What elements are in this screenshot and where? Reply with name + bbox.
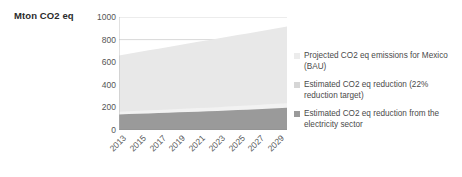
y-tick-label: 0 — [90, 126, 116, 135]
y-axis-title: Mton CO2 eq — [14, 10, 74, 21]
x-axis-tick-labels: 201320152017201920212023202520272029 — [119, 131, 294, 175]
legend-swatch-icon — [294, 82, 300, 88]
plot-area — [119, 17, 287, 130]
x-tick-label: 2017 — [147, 133, 167, 153]
x-tick-label: 2013 — [108, 133, 128, 153]
area-chart: Mton CO2 eq 1000 800 600 400 200 0 20132… — [0, 0, 462, 177]
y-axis-tick-labels: 1000 800 600 400 200 0 — [88, 17, 116, 130]
y-tick-label: 1000 — [90, 13, 116, 22]
plot-svg — [119, 17, 287, 130]
legend-item-label: Projected CO2 eq emissions for Mexico (B… — [304, 50, 460, 72]
y-tick-label: 800 — [90, 35, 116, 44]
legend-item-label: Estimated CO2 eq reduction (22% reductio… — [304, 79, 460, 101]
legend-swatch-icon — [294, 111, 300, 117]
x-tick-label: 2027 — [246, 133, 266, 153]
x-tick-label: 2023 — [206, 133, 226, 153]
x-tick-label: 2015 — [127, 133, 147, 153]
stacked-area-series — [119, 27, 287, 130]
y-tick-label: 400 — [90, 81, 116, 90]
y-tick-label: 600 — [90, 58, 116, 67]
y-tick-label: 200 — [90, 103, 116, 112]
legend-item[interactable]: Estimated CO2 eq reduction from the elec… — [294, 108, 460, 130]
legend-item[interactable]: Projected CO2 eq emissions for Mexico (B… — [294, 50, 460, 72]
x-tick-label: 2025 — [226, 133, 246, 153]
x-tick-label: 2021 — [187, 133, 207, 153]
legend-item-label: Estimated CO2 eq reduction from the elec… — [304, 108, 460, 130]
chart-legend: Projected CO2 eq emissions for Mexico (B… — [294, 50, 460, 137]
x-tick-label: 2029 — [266, 133, 286, 153]
legend-swatch-icon — [294, 53, 300, 59]
legend-item[interactable]: Estimated CO2 eq reduction (22% reductio… — [294, 79, 460, 101]
x-tick-label: 2019 — [167, 133, 187, 153]
